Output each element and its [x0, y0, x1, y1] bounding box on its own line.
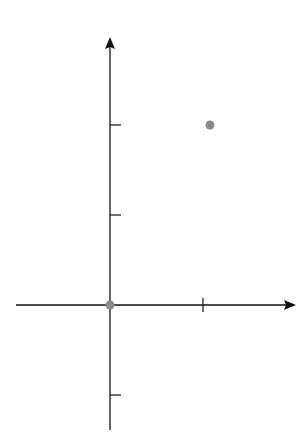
point-p2: [206, 121, 215, 130]
tangent-graph: [0, 0, 306, 435]
point-p1: [106, 301, 115, 310]
